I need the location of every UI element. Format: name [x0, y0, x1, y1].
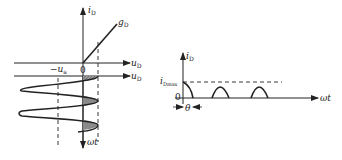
right-id-label: iD — [186, 51, 194, 62]
current-pulse-1 — [183, 82, 193, 98]
lower-ud-label: uD — [131, 71, 142, 82]
right-wt-label: ωt — [320, 93, 331, 103]
current-pulse-2 — [212, 87, 229, 98]
right-current-waveform: iD iDmax 0 ωt θ — [160, 51, 331, 113]
idmax-label: iDmax — [160, 76, 178, 87]
current-pulse-3 — [251, 87, 268, 98]
theta-label: θ — [185, 103, 191, 113]
right-origin-label: 0 — [175, 92, 181, 102]
bias-label: −ua — [50, 64, 67, 75]
left-origin-label: 0 — [80, 65, 86, 75]
diode-conduction-diagram: iD gD uD uD 0 −ua ωt iD iDmax 0 ωt θ — [0, 0, 342, 160]
gd-characteristic-line — [83, 24, 117, 63]
gd-label: gD — [118, 17, 129, 28]
left-transfer-diagram: iD gD uD uD 0 −ua ωt — [14, 5, 142, 148]
left-wt-label: ωt — [87, 137, 98, 147]
upper-ud-label: uD — [131, 58, 142, 69]
left-id-label: iD — [88, 5, 96, 16]
